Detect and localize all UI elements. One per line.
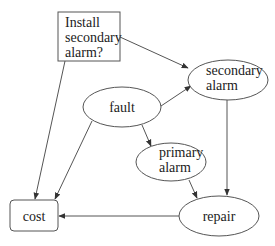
influence-diagram: Install secondary alarm? secondary alarm… xyxy=(0,0,275,246)
node-label-line: repair xyxy=(203,209,236,224)
node-label-line: fault xyxy=(109,100,135,115)
node-label-line: alarm xyxy=(206,78,238,93)
edge-fault-to-cost xyxy=(55,121,92,199)
node-label-line: alarm? xyxy=(65,45,103,60)
node-label-line: secondary xyxy=(206,63,263,78)
node-fault[interactable]: fault xyxy=(83,87,161,127)
node-repair[interactable]: repair xyxy=(179,196,259,236)
node-label-line: primary xyxy=(159,145,203,160)
node-install-secondary-alarm[interactable]: Install secondary alarm? xyxy=(58,12,122,61)
edge-install-to-cost xyxy=(35,61,65,199)
node-label-line: Install xyxy=(65,15,100,30)
node-label-line: secondary xyxy=(65,30,122,45)
edge-fault-to-secondary-alarm xyxy=(161,86,191,106)
node-label-line: cost xyxy=(23,209,46,224)
node-label-line: alarm xyxy=(159,160,191,175)
node-cost[interactable]: cost xyxy=(10,200,58,231)
edge-primary-alarm-to-repair xyxy=(189,180,197,198)
edge-fault-to-primary-alarm xyxy=(142,125,151,146)
node-primary-alarm[interactable]: primary alarm xyxy=(136,143,206,181)
edge-install-to-secondary-alarm xyxy=(120,37,188,68)
node-secondary-alarm[interactable]: secondary alarm xyxy=(188,60,268,100)
